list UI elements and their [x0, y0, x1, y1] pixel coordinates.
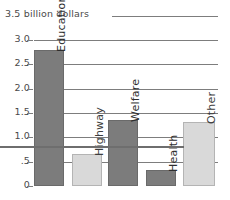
bar-welfare — [108, 120, 138, 186]
bar-chart: 3.5 billion dollars 0.51.01.52.02.53.0 E… — [0, 0, 230, 200]
y-tick-mark-1-5 — [27, 113, 33, 114]
y-tick-label-1: 1.0 — [4, 130, 30, 141]
bar-education — [34, 50, 64, 186]
y-tick-mark-2 — [27, 89, 33, 90]
x-axis-baseline — [0, 146, 184, 148]
y-tick-label-3: 3.0 — [4, 33, 30, 44]
bar-label-health: Health — [167, 135, 180, 172]
y-tick-mark-2-5 — [27, 64, 33, 65]
y-tick-label-1-5: 1.5 — [4, 106, 30, 117]
bar-highway — [72, 154, 102, 186]
bar-label-welfare: Welfare — [129, 79, 142, 122]
y-tick-label-2: 2.0 — [4, 82, 30, 93]
bar-label-highway: Highway — [93, 107, 106, 156]
y-tick-label-0: 0 — [4, 179, 30, 190]
y-tick-label-0-5: .5 — [4, 155, 30, 166]
bar-label-education: Education — [55, 0, 68, 52]
bar-other — [183, 122, 215, 186]
plot-area: EducationHighwayWelfareHealthOther — [34, 40, 218, 186]
y-tick-mark-3 — [27, 40, 33, 41]
bar-health — [146, 170, 176, 186]
y-tick-mark-0-5 — [27, 162, 33, 163]
y-tick-mark-1 — [27, 137, 33, 138]
gridline-3-5 — [112, 16, 218, 17]
y-tick-label-2-5: 2.5 — [4, 57, 30, 68]
bar-label-other: Other — [205, 92, 218, 124]
y-axis-labels: 0.51.01.52.02.53.0 — [0, 0, 30, 200]
y-tick-mark-0 — [27, 186, 33, 187]
